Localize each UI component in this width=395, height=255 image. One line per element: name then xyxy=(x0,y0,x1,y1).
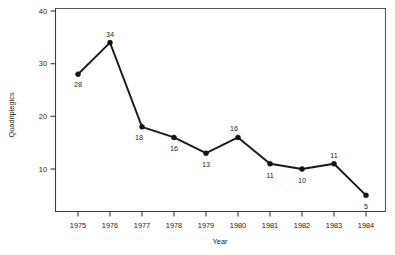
data-series-line xyxy=(78,43,366,196)
data-point-1976 xyxy=(108,40,113,45)
x-tick-label-1977: 1977 xyxy=(134,221,150,230)
x-tick-label-1980: 1980 xyxy=(230,221,246,230)
data-point-label-1981: 11 xyxy=(266,171,273,180)
y-axis-tick-labels: 40 30 20 10 xyxy=(39,7,47,174)
data-point-labels: 2834181613161110115 xyxy=(74,30,368,212)
x-tick-label-1976: 1976 xyxy=(102,221,118,230)
x-tick-label-1984: 1984 xyxy=(358,221,374,230)
x-axis-ticks xyxy=(78,212,366,217)
plot-frame xyxy=(55,9,386,212)
x-tick-label-1982: 1982 xyxy=(294,221,310,230)
chart-container: 40 30 20 10 1975 1976 1977 1978 1979 198… xyxy=(0,0,395,255)
y-axis-title: Quadriplegics xyxy=(7,92,16,137)
data-point-1979 xyxy=(204,151,209,156)
data-point-label-1982: 10 xyxy=(298,176,306,185)
data-point-1982 xyxy=(300,167,305,172)
data-point-1983 xyxy=(332,161,337,166)
x-tick-label-1981: 1981 xyxy=(262,221,278,230)
x-axis-tick-labels: 1975 1976 1977 1978 1979 1980 1981 1982 … xyxy=(70,221,374,230)
data-point-label-1980: 16 xyxy=(230,124,238,133)
x-tick-label-1979: 1979 xyxy=(198,221,214,230)
y-tick-label-40: 40 xyxy=(39,7,47,16)
data-point-label-1979: 13 xyxy=(202,160,210,169)
y-tick-label-30: 30 xyxy=(39,59,47,68)
data-point-label-1977: 18 xyxy=(135,133,143,142)
line-chart: 40 30 20 10 1975 1976 1977 1978 1979 198… xyxy=(0,0,395,255)
data-point-label-1975: 28 xyxy=(74,80,82,89)
y-axis-ticks xyxy=(51,11,56,169)
data-point-label-1978: 16 xyxy=(170,144,178,153)
data-point-1977 xyxy=(140,124,145,129)
y-tick-label-20: 20 xyxy=(39,112,47,121)
data-point-1978 xyxy=(172,135,177,140)
data-point-markers xyxy=(76,40,369,198)
x-tick-label-1975: 1975 xyxy=(70,221,86,230)
data-point-1981 xyxy=(268,161,273,166)
x-tick-label-1978: 1978 xyxy=(166,221,182,230)
data-point-label-1976: 34 xyxy=(106,30,114,39)
data-point-1975 xyxy=(76,72,81,77)
data-point-1980 xyxy=(236,135,241,140)
x-tick-label-1983: 1983 xyxy=(326,221,342,230)
x-axis-title: Year xyxy=(213,237,228,246)
data-point-label-1984: 5 xyxy=(364,202,368,211)
data-point-1984 xyxy=(364,193,369,198)
y-tick-label-10: 10 xyxy=(39,165,47,174)
data-point-label-1983: 11 xyxy=(330,151,337,160)
